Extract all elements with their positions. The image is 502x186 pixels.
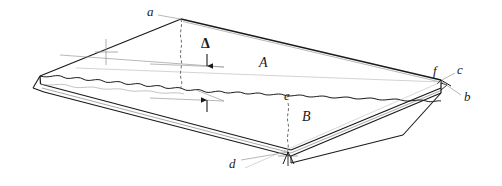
label-d: d: [229, 157, 236, 170]
plate-top-surface: [40, 19, 441, 82]
label-region-B: B: [302, 110, 311, 124]
plate-front-face: [41, 84, 442, 156]
label-region-A: A: [259, 56, 268, 70]
label-f: f: [433, 64, 437, 77]
label-c: c: [457, 63, 463, 76]
e-vertical-dashed-line: [287, 103, 288, 154]
fracture-wavy-line-lower: [41, 84, 185, 94]
label-e: e: [284, 89, 290, 102]
plate-right-rib: [291, 93, 441, 163]
label-b: b: [464, 90, 471, 103]
label-delta: Δ: [201, 37, 210, 51]
apex-vertical-dashed-line: [180, 19, 181, 90]
plate-fracture-diagram: [0, 0, 502, 186]
center-cross-mark: [95, 39, 118, 65]
figure-canvas: a Δ A f c b e B d: [0, 0, 502, 186]
label-a: a: [147, 5, 154, 18]
